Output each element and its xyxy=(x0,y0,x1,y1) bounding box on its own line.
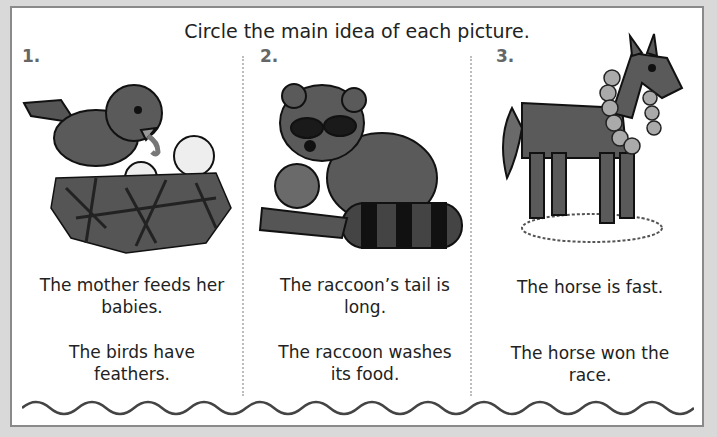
answer-option[interactable]: The horse won the race. xyxy=(510,342,670,386)
answer-option[interactable]: The raccoon washes its food. xyxy=(270,341,460,385)
bird-icon xyxy=(16,68,236,268)
answer-option[interactable]: The birds have feathers. xyxy=(32,341,232,385)
item-number-1: 1. xyxy=(22,46,40,66)
wavy-line-divider xyxy=(22,394,694,422)
horse-icon xyxy=(482,28,696,268)
raccoon-icon xyxy=(252,68,466,268)
item-number-2: 2. xyxy=(260,46,278,66)
horse-picture[interactable] xyxy=(482,28,696,268)
answer-option[interactable]: The horse is fast. xyxy=(480,276,700,298)
bird-nest-picture[interactable] xyxy=(16,68,236,268)
worksheet: Circle the main idea of each picture. 1.… xyxy=(10,6,704,427)
raccoon-picture[interactable] xyxy=(252,68,466,268)
column-divider xyxy=(470,56,472,396)
answer-option[interactable]: The mother feeds her babies. xyxy=(32,274,232,318)
column-divider xyxy=(242,56,244,396)
answer-option[interactable]: The raccoon’s tail is long. xyxy=(270,274,460,318)
